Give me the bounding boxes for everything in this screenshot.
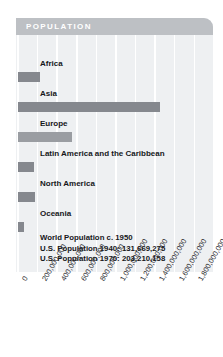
bar-europe — [18, 132, 72, 142]
category-label: Asia — [40, 89, 57, 98]
category-label: Latin America and the Caribbean — [40, 149, 165, 158]
bar-oceania — [18, 222, 24, 232]
bar-asia — [18, 102, 160, 112]
bar-north-america — [18, 192, 35, 202]
category-label: Africa — [40, 59, 63, 68]
bar-africa — [18, 72, 40, 82]
panel-header: POPULATION — [16, 18, 213, 35]
population-bar-chart-figure: POPULATION AfricaAsiaEuropeLatin America… — [0, 0, 223, 357]
chart-panel: POPULATION AfricaAsiaEuropeLatin America… — [16, 18, 213, 272]
page-title: POPULATION — [26, 22, 92, 31]
x-tick-label: 0 — [20, 274, 30, 282]
category-label: Oceania — [40, 209, 71, 218]
x-axis-tick-labels: 0200,000,000400,000,000600,000,000800,00… — [0, 272, 223, 357]
category-label: North America — [40, 179, 95, 188]
category-label: Europe — [40, 119, 68, 128]
bar-latin-america-and-the-caribbean — [18, 162, 34, 172]
